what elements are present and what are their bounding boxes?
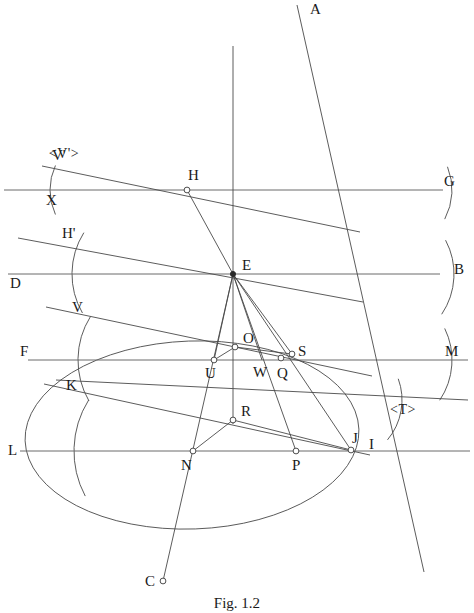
figure-caption: Fig. 1.2 [214,595,260,611]
point-marker-P [293,448,299,454]
arc-B-right [442,240,454,314]
point-label-W: W [253,364,268,380]
line-E-to-S [233,274,292,354]
point-label-L: L [8,442,17,458]
geometric-diagram-canvas: AHEOUWQSRNPJCIV'H'VKGBMLFDX <V'><T> Fig.… [0,0,474,613]
point-label-I: I [369,436,374,452]
segments-group [18,5,468,581]
point-label-M: M [445,343,458,359]
arc-V-left [78,317,90,401]
point-markers-group [160,187,354,584]
point-label-Q: Q [277,365,288,381]
arc-M-right [440,328,452,400]
point-label-K: K [66,377,77,393]
point-label-H: H [188,167,199,183]
major-circle [22,335,362,535]
angle-tags-group: <V'><T> [49,146,416,417]
oblique-K [44,384,370,455]
point-label-C: C [145,573,155,589]
ray-A-through-E-to-J-I [297,5,424,572]
point-marker-J [348,447,354,453]
point-label-J: J [352,430,358,446]
oblique-T-lower [56,380,468,400]
point-marker-C [160,578,166,584]
point-label-B: B [454,261,464,277]
major-circle [22,335,362,535]
oblique-H-prime [18,238,363,302]
point-label-E: E [242,257,251,273]
figure-root: AHEOUWQSRNPJCIV'H'VKGBMLFDX <V'><T> Fig.… [0,0,474,613]
angle-tag-t: <T> [390,402,416,417]
point-label-R: R [241,403,251,419]
point-marker-N [190,448,196,454]
angle-tag-v: <V'> [49,146,79,161]
point-label-A: A [310,1,321,17]
point-label-U: U [205,365,216,381]
point-label-N: N [181,457,192,473]
point-marker-H [184,187,190,193]
line-E-to-Q-to-P [233,274,296,451]
point-label-O: O [243,330,254,346]
point-label-P: P [292,457,300,473]
point-marker-U [211,357,217,363]
point-marker-Q [278,355,284,361]
line-E-to-N-to-C [163,274,233,581]
point-marker-S [289,351,295,357]
point-label-G: G [444,173,455,189]
point-label-V: V [72,299,83,315]
line-U-to-O [214,347,235,360]
line-H-to-E [187,190,233,274]
arc-K-left [74,400,89,496]
line-E-to-J [233,274,351,450]
point-marker-E [230,271,235,276]
point-label-D: D [10,275,21,291]
point-marker-O [232,344,238,350]
point-label-F: F [20,343,28,359]
line-R-to-J [233,420,351,450]
point-labels-group: AHEOUWQSRNPJCIV'H'VKGBMLFDX [8,1,464,589]
oblique-V-prime-top [42,166,360,232]
point-label-S: S [298,343,306,359]
point-label-X: X [46,192,57,208]
point-marker-R [230,417,236,423]
point-label-H-prime: H' [62,225,76,241]
